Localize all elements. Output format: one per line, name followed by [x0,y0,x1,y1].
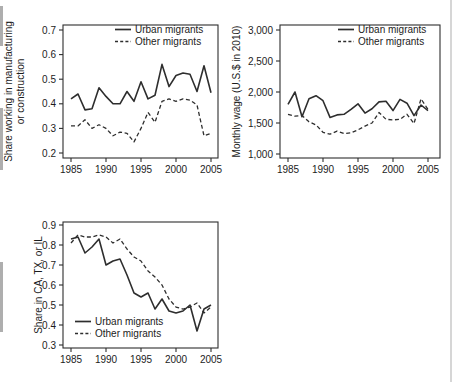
legend-label: Urban migrants [135,24,203,35]
series-line-other-migrants [71,99,211,142]
y-tick-label: 3,000 [248,25,273,36]
x-tick-label: 1985 [60,164,83,175]
y-tick-label: 0.9 [42,220,56,231]
three-panel-line-figure: 0.20.30.40.50.60.719851990199520002005Sh… [0,0,457,382]
x-tick-label: 1995 [130,354,153,365]
y-tick-label: 1,500 [248,118,273,129]
scan-artifact-left [0,108,3,170]
share-manufacturing-chart: 0.20.30.40.50.60.719851990199520002005Sh… [3,21,223,175]
x-tick-label: 1990 [312,164,335,175]
y-tick-label: 2,500 [248,56,273,67]
x-tick-label: 2005 [417,164,440,175]
y-tick-label: 0.6 [42,280,56,291]
figure-page: 0.20.30.40.50.60.719851990199520002005Sh… [0,0,457,382]
legend-label: Urban migrants [358,24,426,35]
y-axis-title: or construction [15,59,26,125]
scan-artifact-left [0,262,3,332]
x-tick-label: 2000 [165,164,188,175]
x-tick-label: 1995 [347,164,370,175]
y-tick-label: 0.7 [42,260,56,271]
y-tick-label: 0.4 [42,98,56,109]
y-axis-title: Share working in manufacturing [3,21,14,162]
share-ca-tx-il-chart: 0.30.40.50.60.70.80.91985199019952000200… [33,220,223,366]
x-tick-label: 2005 [200,164,223,175]
x-tick-label: 1985 [277,164,300,175]
y-tick-label: 0.5 [42,74,56,85]
monthly-wage-chart: 1,0001,5002,0002,5003,000198519901995200… [231,24,440,175]
y-tick-label: 0.3 [42,340,56,351]
y-tick-label: 0.6 [42,49,56,60]
y-tick-label: 0.8 [42,240,56,251]
y-tick-label: 2,000 [248,87,273,98]
legend-label: Other migrants [358,36,424,47]
x-tick-label: 1995 [130,164,153,175]
series-line-urban-migrants [71,64,211,110]
y-tick-label: 0.5 [42,300,56,311]
y-tick-label: 0.3 [42,123,56,134]
x-tick-label: 2005 [200,354,223,365]
x-tick-label: 1985 [60,354,83,365]
x-tick-label: 1990 [95,164,118,175]
y-axis-title: Share in CA, TX, or IL [33,236,44,334]
y-axis-title: Monthly wage (U.S.$ in 2010) [231,26,242,158]
y-tick-label: 1,000 [248,149,273,160]
legend-label: Other migrants [135,36,201,47]
legend-label: Other migrants [95,328,161,339]
legend-label: Urban migrants [95,316,163,327]
y-tick-label: 0.7 [42,25,56,36]
x-tick-label: 1990 [95,354,118,365]
y-tick-label: 0.2 [42,148,56,159]
series-line-urban-migrants [288,92,428,117]
x-tick-label: 2000 [382,164,405,175]
scan-artifact-left [0,6,3,46]
x-tick-label: 2000 [165,354,188,365]
y-tick-label: 0.4 [42,320,56,331]
scan-artifact-right [450,0,452,382]
